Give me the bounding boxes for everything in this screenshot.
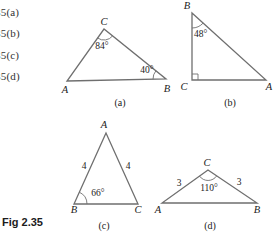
triangle-b: 48° B C A (b) [180, 0, 272, 109]
triangle-b-vertex-B-label: B [184, 0, 191, 11]
triangle-c-vertex-B-label: B [71, 204, 78, 215]
triangle-b-outline [192, 13, 266, 80]
triangle-c-angle-arc-B [79, 192, 87, 204]
triangle-a-caption: (a) [114, 97, 125, 109]
triangle-a-vertex-B-label: B [164, 83, 171, 94]
triangle-d-vertex-C-label: C [203, 157, 211, 168]
triangle-b-vertex-A-label: A [265, 81, 273, 92]
triangle-b-right-angle-marker [192, 74, 198, 80]
triangle-a-angle-arc-C [98, 36, 113, 40]
triangle-c-side-AB-length: 4 [82, 161, 87, 171]
triangle-c-vertex-A-label: A [100, 119, 108, 130]
triangle-d-side-CA-length: 3 [177, 178, 182, 188]
triangle-b-angle-B-value: 48° [194, 29, 208, 39]
triangle-c-side-AC-length: 4 [126, 161, 131, 171]
triangle-c: 66° 4 4 A B C (c) [71, 119, 143, 232]
triangle-a-vertex-A-label: A [61, 84, 69, 95]
figure-page: 35(a) 35(b) 35(c) 35(d) Fig 2.35 84° 40°… [0, 0, 277, 240]
triangle-d-side-CB-length: 3 [237, 177, 242, 187]
triangle-b-angle-arc-B [192, 23, 203, 28]
triangle-d-angle-arc-C [200, 176, 217, 181]
triangle-d-angle-C-value: 110° [200, 183, 218, 193]
triangle-d-vertex-B-label: B [254, 204, 261, 215]
triangle-a-angle-B-value: 40° [140, 65, 154, 75]
triangle-b-vertex-C-label: C [180, 81, 188, 92]
triangle-c-angle-B-value: 66° [91, 188, 105, 198]
triangle-a: 84° 40° A B C (a) [61, 16, 171, 109]
triangle-d-vertex-A-label: A [154, 204, 162, 215]
triangles-diagram: 84° 40° A B C (a) 48° B C A (b) 66° 4 4 … [0, 0, 277, 240]
triangle-c-vertex-C-label: C [134, 204, 142, 215]
triangle-c-caption: (c) [98, 220, 109, 232]
triangle-d: 110° 3 3 C A B (d) [154, 157, 261, 232]
triangle-a-angle-C-value: 84° [95, 41, 109, 51]
triangle-b-caption: (b) [224, 97, 236, 109]
triangle-d-caption: (d) [204, 220, 216, 232]
triangle-a-vertex-C-label: C [100, 16, 108, 27]
